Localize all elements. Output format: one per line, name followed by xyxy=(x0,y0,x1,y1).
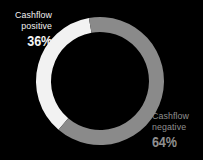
legend-label-negative-line2: negative xyxy=(152,121,200,132)
legend-label-positive-line1: Cashflow xyxy=(4,9,52,20)
legend-label-positive-line2: positive xyxy=(4,20,52,31)
cashflow-donut-chart: Cashflow positive 36% Cashflow negative … xyxy=(0,0,203,160)
legend-value-negative: 64% xyxy=(152,134,199,151)
legend-value-positive: 36% xyxy=(5,33,52,50)
legend-callout-cashflow-negative: Cashflow negative 64% xyxy=(152,110,203,151)
legend-callout-cashflow-positive: Cashflow positive 36% xyxy=(0,9,52,50)
donut-slice-group xyxy=(36,17,164,145)
legend-label-negative-line1: Cashflow xyxy=(152,110,200,121)
